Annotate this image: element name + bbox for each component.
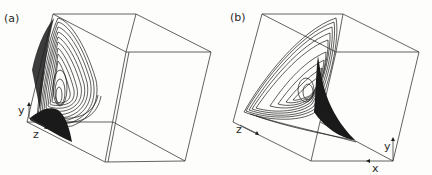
- arrow-up-icon: [391, 137, 395, 141]
- arrow-left-icon: [366, 159, 370, 163]
- panel-b-axis-z-label: z: [236, 123, 242, 136]
- panel-a-label: (a): [4, 12, 19, 25]
- panel-a-attractor: [30, 18, 101, 142]
- panel-b-axis-x-label: x: [372, 162, 379, 175]
- panel-a-axis-y-label: y: [18, 104, 25, 117]
- panel-b-label: (b): [230, 11, 246, 24]
- arrow-up-icon: [27, 102, 31, 106]
- panel-a: (a): [4, 12, 211, 162]
- panel-b: (b) z: [230, 11, 419, 175]
- panel-b-axis-y-label: y: [384, 140, 391, 153]
- figure-canvas: (a): [0, 0, 432, 175]
- panel-a-axis-z-label: z: [33, 128, 39, 141]
